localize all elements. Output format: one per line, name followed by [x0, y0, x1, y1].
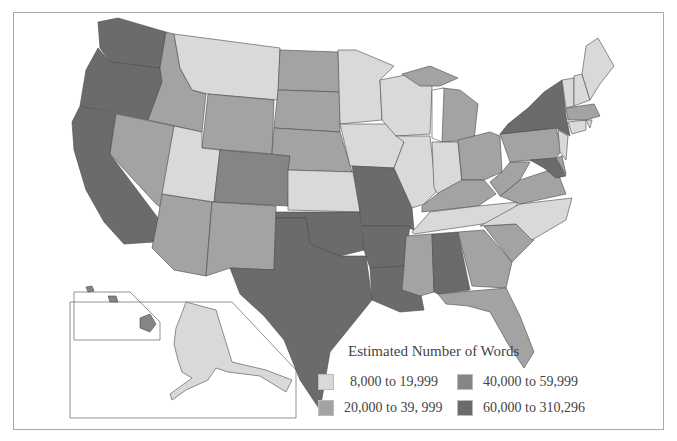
hawaii-islands-mid[interactable] [108, 296, 118, 302]
state-wyoming[interactable] [202, 94, 274, 154]
legend-swatch-darkest [457, 400, 473, 416]
state-new-mexico[interactable] [206, 202, 276, 276]
legend-item-20k-40k: 20,000 to 39, 999 [318, 400, 442, 416]
state-arkansas[interactable] [362, 226, 410, 268]
legend-item-40k-60k: 40,000 to 59,999 [457, 374, 578, 390]
legend-label: 20,000 to 39, 999 [344, 400, 442, 416]
state-new-york[interactable] [500, 80, 570, 136]
legend-title: Estimated Number of Words [348, 343, 519, 360]
state-new-jersey[interactable] [558, 130, 568, 160]
legend-swatch-lightest [318, 374, 334, 390]
state-north-dakota[interactable] [278, 50, 340, 92]
lake-michigan [432, 88, 444, 142]
legend-swatch-light [318, 400, 334, 416]
state-michigan[interactable] [440, 88, 478, 142]
state-mississippi[interactable] [402, 234, 434, 296]
state-south-dakota[interactable] [274, 90, 340, 132]
legend-label: 8,000 to 19,999 [350, 374, 438, 390]
hawaii-islands-small[interactable] [86, 286, 94, 292]
legend-label: 40,000 to 59,999 [483, 374, 578, 390]
state-rhode-island[interactable] [586, 120, 592, 128]
legend-item-8k-20k: 8,000 to 19,999 [318, 374, 438, 390]
legend-swatch-dark [457, 374, 473, 390]
legend-item-60k-310k: 60,000 to 310,296 [457, 400, 585, 416]
state-ohio[interactable] [458, 132, 502, 180]
state-arizona[interactable] [152, 194, 212, 276]
state-kansas[interactable] [288, 170, 360, 212]
state-colorado[interactable] [214, 150, 290, 206]
state-connecticut[interactable] [568, 120, 586, 134]
state-hawaii[interactable] [140, 314, 156, 332]
legend-label: 60,000 to 310,296 [483, 400, 585, 416]
